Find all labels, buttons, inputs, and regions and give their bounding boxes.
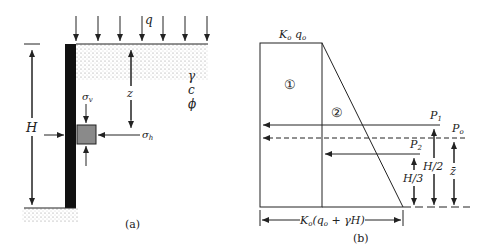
height-label: H <box>25 120 38 135</box>
retaining-wall <box>65 44 76 208</box>
dim-h2-label: H/2 <box>422 160 443 173</box>
soil-friction-angle: ϕ <box>188 97 196 111</box>
caption-a: (a) <box>125 218 140 231</box>
caption-b: (b) <box>353 232 369 245</box>
force-p1-label: P1 <box>429 109 442 123</box>
surcharge-label: q <box>145 13 153 27</box>
force-po-label: Po <box>451 122 464 136</box>
soil-cohesion: c <box>188 83 195 97</box>
top-pressure-label: Ko qo <box>278 28 306 42</box>
depth-label: z <box>126 87 133 100</box>
dim-zbar-label: z̄ <box>449 165 456 178</box>
sigma-h-label: σh <box>142 129 153 142</box>
dim-h3-label: H/3 <box>402 172 423 185</box>
force-p2-label: P2 <box>409 138 422 152</box>
foundation-soil <box>22 208 78 222</box>
panel-a: q H z γ c ϕ σv σh (a) <box>22 13 208 231</box>
region-2-label: ② <box>331 105 343 120</box>
soil-element <box>77 125 96 144</box>
base-pressure-label: Ko(qo + γH) <box>299 214 365 228</box>
soil-unit-weight: γ <box>188 69 196 83</box>
sigma-v-label: σv <box>82 91 93 104</box>
region-1-label: ① <box>284 77 296 92</box>
diagram-canvas: q H z γ c ϕ σv σh (a) Ko q <box>0 0 479 248</box>
surcharge-arrows <box>76 16 207 41</box>
panel-b: Ko qo ① ② P1 Po P2 H/3 H/2 z̄ <box>260 28 470 245</box>
